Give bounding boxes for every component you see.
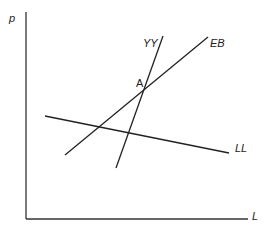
eb-curve-label: EB: [210, 38, 225, 49]
diagram-canvas: [0, 0, 272, 229]
eb-curve: [65, 37, 208, 155]
yy-curve-label: YY: [143, 38, 158, 49]
yy-curve: [116, 36, 163, 168]
ll-curve-label: LL: [235, 143, 247, 154]
y-axis-label: p: [9, 13, 15, 24]
ll-curve: [45, 116, 229, 153]
economics-diagram: p L YY EB LL A: [0, 0, 272, 229]
point-a-label: A: [136, 78, 143, 89]
x-axis-label: L: [252, 211, 258, 222]
